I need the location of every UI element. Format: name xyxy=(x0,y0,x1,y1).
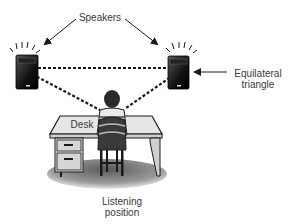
equilateral-triangle-lines xyxy=(28,68,178,110)
equilateral-triangle-label: Equilateral triangle xyxy=(228,68,288,90)
callout-arrows xyxy=(45,19,227,72)
desk-label: Desk xyxy=(68,119,96,130)
speaker-placement-diagram xyxy=(0,0,289,224)
left-speaker-icon xyxy=(10,42,40,89)
listening-position-label: Listening position xyxy=(97,196,147,218)
speakers-label: Speakers xyxy=(78,12,122,23)
equilateral-label-line1: Equilateral xyxy=(228,68,288,79)
right-speaker-icon xyxy=(166,42,197,89)
listening-label-line2: position xyxy=(97,207,147,218)
listening-label-line1: Listening xyxy=(97,196,147,207)
equilateral-label-line2: triangle xyxy=(228,79,288,90)
